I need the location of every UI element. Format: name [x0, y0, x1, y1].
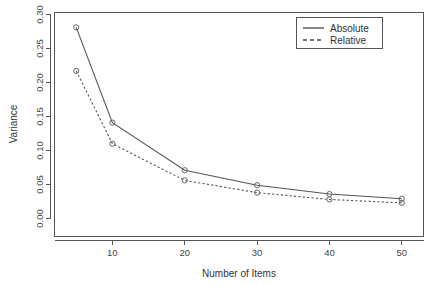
series-group	[74, 25, 405, 206]
y-tick-label-3: 0.15	[34, 107, 45, 126]
x-tick-label-0: 10	[107, 247, 118, 258]
y-tick-label-4: 0.20	[34, 73, 45, 92]
y-tick-label-6: 0.30	[34, 5, 45, 24]
x-tick-label-1: 20	[179, 247, 190, 258]
y-tick-label-0: 0.00	[34, 209, 45, 228]
y-tick-group: 0.000.050.100.150.200.250.30	[34, 5, 51, 228]
series-absolute	[74, 25, 405, 202]
y-axis: 0.000.050.100.150.200.250.30 Variance	[8, 5, 51, 228]
legend-label-absolute: Absolute	[330, 23, 369, 34]
legend-label-relative: Relative	[330, 35, 367, 46]
x-tick-label-2: 30	[252, 247, 263, 258]
series-relative	[74, 68, 405, 205]
x-tick-label-4: 50	[397, 247, 408, 258]
y-tick-label-1: 0.05	[34, 175, 45, 194]
series-line-relative	[76, 71, 402, 203]
y-tick-label-5: 0.25	[34, 39, 45, 58]
x-tick-group: 1020304050	[107, 241, 407, 259]
x-axis: 1020304050 Number of Items	[55, 241, 424, 280]
y-axis-title: Variance	[8, 104, 19, 143]
y-tick-label-2: 0.10	[34, 141, 45, 160]
chart-container: 0.000.050.100.150.200.250.30 Variance 10…	[0, 0, 436, 286]
line-chart-svg: 0.000.050.100.150.200.250.30 Variance 10…	[0, 0, 436, 286]
x-axis-title: Number of Items	[202, 268, 276, 279]
chart-legend[interactable]: Absolute Relative	[297, 18, 383, 49]
series-line-absolute	[76, 27, 402, 198]
x-tick-label-3: 40	[324, 247, 335, 258]
